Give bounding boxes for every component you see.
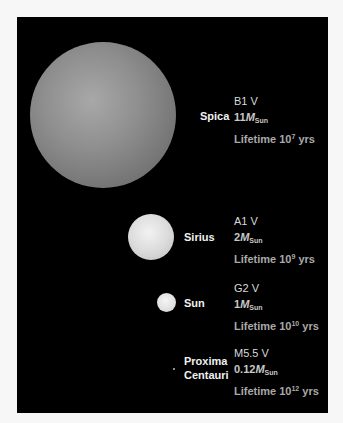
star-info-sun: G2 V 1MSun Lifetime 1010 yrs xyxy=(234,280,319,334)
lifetime: Lifetime 1010 yrs xyxy=(234,316,319,334)
sirius-sphere xyxy=(128,214,174,260)
mass: 2MSun xyxy=(234,229,315,249)
lifetime: Lifetime 1012 yrs xyxy=(234,381,319,399)
mass: 0.12MSun xyxy=(234,361,319,381)
star-name-sun: Sun xyxy=(184,296,205,310)
star-info-proxima-centauri: M5.5 V 0.12MSun Lifetime 1012 yrs xyxy=(234,345,319,399)
proxima-centauri-dot xyxy=(173,368,175,370)
spectral-type: G2 V xyxy=(234,280,319,296)
mass: 11MSun xyxy=(234,109,315,129)
spectral-type: M5.5 V xyxy=(234,345,319,361)
spica-sphere xyxy=(30,42,176,188)
lifetime: Lifetime 107 yrs xyxy=(234,129,315,147)
star-info-spica: B1 V 11MSun Lifetime 107 yrs xyxy=(234,93,315,147)
lifetime: Lifetime 109 yrs xyxy=(234,249,315,267)
star-name-spica: Spica xyxy=(200,109,229,123)
mass: 1MSun xyxy=(234,296,319,316)
star-info-sirius: A1 V 2MSun Lifetime 109 yrs xyxy=(234,213,315,267)
sun-sphere xyxy=(157,293,176,312)
star-name-proxima-centauri: Proxima Centauri xyxy=(184,354,229,382)
star-name-sirius: Sirius xyxy=(184,230,215,244)
spectral-type: A1 V xyxy=(234,213,315,229)
spectral-type: B1 V xyxy=(234,93,315,109)
